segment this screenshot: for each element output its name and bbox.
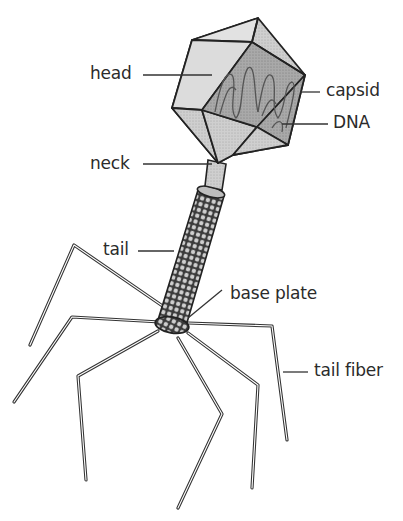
- label-neck: neck: [90, 155, 130, 172]
- diagram-artwork: [0, 0, 403, 521]
- label-tail-fiber: tail fiber: [314, 362, 383, 379]
- head-capsid: [172, 18, 305, 163]
- label-base-plate: base plate: [230, 285, 317, 302]
- label-tail: tail: [103, 241, 129, 258]
- label-capsid: capsid: [326, 82, 380, 99]
- label-dna: DNA: [333, 114, 370, 131]
- bacteriophage-diagram: head capsid DNA neck tail base plate tai…: [0, 0, 403, 521]
- tail-sheath: [158, 184, 226, 326]
- label-head: head: [90, 65, 132, 82]
